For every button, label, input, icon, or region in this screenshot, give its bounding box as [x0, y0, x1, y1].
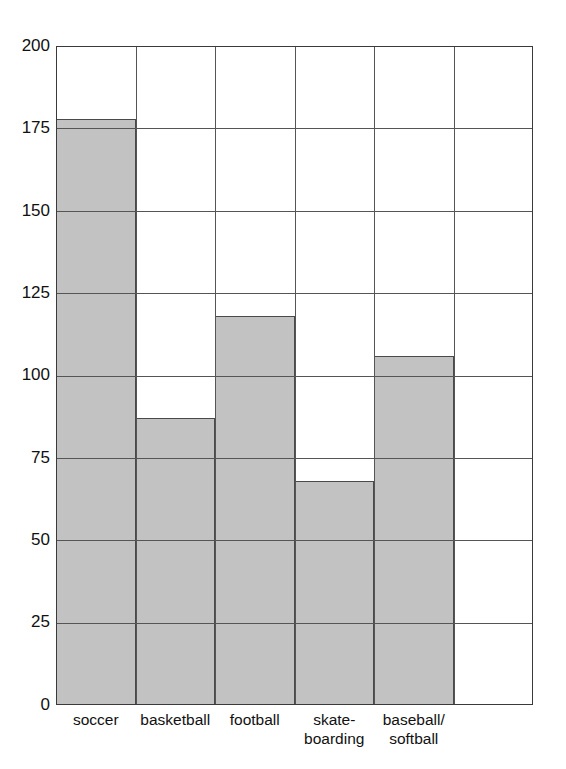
bar-chart: 200 175 150 125 100 75 50 25 0 [0, 0, 566, 769]
x-axis-label-skateboarding-line1: skate- [313, 711, 355, 728]
column-divider-5 [454, 46, 455, 705]
x-axis-label-baseball-softball: baseball/ softball [374, 710, 454, 748]
x-axis-label-skateboarding-line2: boarding [295, 729, 375, 748]
bar-skateboarding [295, 481, 375, 705]
x-axis-label-basketball: basketball [136, 710, 216, 729]
y-axis-tick-175: 175 [2, 119, 50, 136]
y-axis-tick-125: 125 [2, 284, 50, 301]
x-axis-label-football: football [215, 710, 295, 729]
y-axis-tick-50: 50 [2, 531, 50, 548]
x-axis-label-football-line1: football [230, 711, 280, 728]
y-axis-tick-0: 0 [2, 696, 50, 713]
bar-basketball [136, 418, 216, 705]
column-divider-1 [136, 46, 137, 705]
x-axis-label-baseball-softball-line2: softball [374, 729, 454, 748]
plot-area [56, 46, 533, 705]
y-axis-tick-100: 100 [2, 366, 50, 383]
x-axis-labels: soccer basketball football skate- boardi… [56, 710, 533, 766]
y-axis-tick-150: 150 [2, 202, 50, 219]
y-axis-tick-25: 25 [2, 613, 50, 630]
bar-baseball-softball [374, 356, 454, 705]
bar-soccer [56, 119, 136, 706]
column-divider-2 [215, 46, 216, 705]
x-axis-label-soccer: soccer [56, 710, 136, 729]
y-axis-labels: 200 175 150 125 100 75 50 25 0 [0, 0, 50, 769]
x-axis-label-skateboarding: skate- boarding [295, 710, 375, 748]
y-axis-tick-75: 75 [2, 449, 50, 466]
column-divider-3 [295, 46, 296, 705]
x-axis-label-basketball-line1: basketball [140, 711, 210, 728]
x-axis-label-soccer-line1: soccer [73, 711, 119, 728]
x-axis-label-baseball-softball-line1: baseball/ [383, 711, 445, 728]
column-divider-4 [374, 46, 375, 705]
y-axis-tick-200: 200 [2, 37, 50, 54]
